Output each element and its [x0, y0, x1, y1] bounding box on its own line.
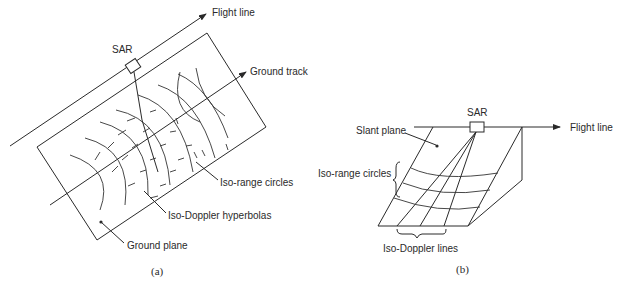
slant-plane-label: Slant plane [356, 125, 406, 136]
ground-track-label: Ground track [250, 66, 309, 77]
panel-b: Flight line SAR Slant plane Is [318, 107, 613, 276]
sar-geometry-diagram: Flight line SAR Ground track [0, 0, 617, 286]
slant-plane-leader [405, 133, 436, 145]
iso-range-label-b: Iso-range circles [318, 168, 391, 179]
caption-a: (a) [151, 265, 164, 278]
caption-b: (b) [456, 263, 469, 276]
sar-label-a: SAR [112, 44, 133, 55]
flight-line-label-b: Flight line [570, 122, 613, 133]
sar-box-a [125, 58, 141, 73]
sar-label-b: SAR [467, 107, 488, 118]
slant-plane-dot [435, 144, 438, 147]
iso-doppler-label-b: Iso-Doppler lines [383, 243, 458, 254]
ground-plane-label: Ground plane [127, 240, 188, 251]
iso-doppler-label-a: Iso-Doppler hyperbolas [168, 210, 271, 221]
sar-box-b [470, 122, 484, 132]
iso-range-brace [393, 162, 400, 197]
iso-range-circles-b [394, 168, 498, 209]
flight-line-a [10, 14, 206, 146]
iso-range-label-a: Iso-range circles [220, 177, 293, 188]
ground-plane-leader [101, 222, 124, 243]
iso-doppler-hyperbolas-a [95, 110, 228, 198]
panel-a: Flight line SAR Ground track [10, 7, 309, 278]
ground-side-edge [468, 180, 522, 226]
slant-plane-right-edge [468, 127, 522, 226]
flight-line-label-a: Flight line [212, 7, 255, 18]
iso-doppler-leader-a [144, 191, 166, 213]
iso-doppler-brace [397, 229, 446, 238]
